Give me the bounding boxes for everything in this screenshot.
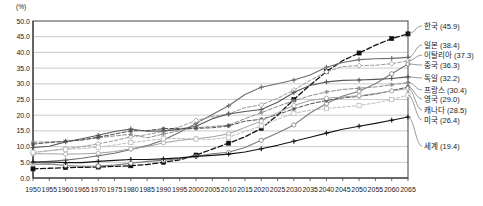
- data-point-marker: [96, 135, 100, 139]
- legend-label-한국: 한국 (45.9): [424, 22, 460, 31]
- data-point-marker: [390, 97, 394, 101]
- data-point-marker: [357, 51, 361, 55]
- legend-label-일본: 일본 (38.4): [424, 41, 460, 50]
- data-point-marker: [259, 111, 263, 115]
- legend-label-캐나다: 캐나다 (28.5): [424, 106, 467, 115]
- data-point-marker: [161, 127, 165, 131]
- x-axis-tick-label: 2040: [319, 186, 335, 193]
- x-axis-tick-label: 1970: [90, 186, 106, 193]
- x-axis-tick-label: 2020: [253, 186, 269, 193]
- y-axis-tick-label: 40.0: [16, 49, 30, 56]
- y-axis-tick-label: 35.0: [16, 65, 30, 72]
- x-axis-tick-label: 1960: [58, 186, 74, 193]
- x-axis-tick-label: 2045: [335, 186, 351, 193]
- data-point-marker: [292, 103, 296, 107]
- data-point-marker: [292, 111, 296, 115]
- data-point-marker: [357, 94, 361, 98]
- data-point-marker: [96, 164, 100, 168]
- data-point-marker: [390, 72, 394, 76]
- x-axis-tick-label: 2055: [368, 186, 384, 193]
- x-axis-tick-labels: 1950195519601965197019751980198519901995…: [25, 186, 416, 193]
- x-axis-tick-label: 1950: [25, 186, 41, 193]
- data-point-marker: [64, 147, 68, 151]
- y-axis-tick-label: 45.0: [16, 33, 30, 40]
- data-point-marker: [390, 83, 394, 87]
- legend-label-이탈리아: 이탈리아 (37.3): [424, 50, 474, 60]
- data-point-marker: [259, 119, 263, 123]
- data-point-marker: [324, 96, 328, 100]
- y-axis-tick-label: 15.0: [16, 127, 30, 134]
- chart-figure: (%) 0.05.010.015.020.025.030.035.040.045…: [0, 0, 483, 206]
- x-axis-tick-label: 1990: [156, 186, 172, 193]
- x-axis-tick-label: 2030: [286, 186, 302, 193]
- data-point-marker: [161, 137, 165, 141]
- data-point-marker: [324, 90, 328, 94]
- data-point-marker: [31, 150, 35, 154]
- x-axis-tick-label: 1985: [139, 186, 155, 193]
- data-point-marker: [129, 129, 133, 133]
- data-point-marker: [324, 107, 328, 111]
- legend-label-독일: 독일 (32.2): [424, 74, 460, 83]
- x-axis-tick-label: 1965: [74, 186, 90, 193]
- y-axis-tick-label: 50.0: [16, 18, 30, 25]
- data-point-marker: [390, 89, 394, 93]
- data-point-marker: [96, 145, 100, 149]
- data-point-marker: [161, 141, 165, 145]
- data-point-marker: [129, 140, 133, 144]
- x-axis-tick-label: 1975: [107, 186, 123, 193]
- data-point-marker: [194, 126, 198, 130]
- data-point-marker: [31, 167, 35, 171]
- x-axis-tick-label: 2025: [270, 186, 286, 193]
- y-axis-unit-label: (%): [16, 3, 26, 11]
- data-point-marker: [259, 138, 263, 142]
- data-point-marker: [259, 124, 263, 128]
- legend-label-프랑스: 프랑스 (30.4): [424, 86, 467, 95]
- data-point-marker: [64, 152, 68, 156]
- x-axis-tick-label: 2050: [351, 186, 367, 193]
- data-point-marker: [64, 139, 68, 143]
- data-point-marker: [292, 123, 296, 127]
- data-point-marker: [357, 103, 361, 107]
- legend-label-세계: 세계 (19.4): [424, 141, 460, 151]
- legend-label-중국: 중국 (36.3): [424, 61, 460, 70]
- legend-label-미국: 미국 (26.4): [424, 116, 460, 125]
- data-point-marker: [129, 147, 133, 151]
- data-point-marker: [227, 141, 231, 145]
- y-axis-tick-label: 20.0: [16, 112, 30, 119]
- x-axis-tick-label: 2000: [188, 186, 204, 193]
- data-point-marker: [227, 135, 231, 139]
- data-point-marker: [390, 36, 394, 40]
- y-axis-tick-label: 5.0: [20, 159, 30, 166]
- x-axis-tick-label: 2065: [400, 186, 416, 193]
- x-axis-tick-label: 1955: [42, 186, 58, 193]
- data-point-marker: [292, 99, 296, 103]
- x-axis-tick-label: 2060: [384, 186, 400, 193]
- data-point-marker: [96, 151, 100, 155]
- y-axis-tick-label: 0.0: [20, 175, 30, 182]
- legend-label-영국: 영국 (29.0): [424, 94, 460, 104]
- x-axis-tick-label: 2015: [237, 186, 253, 193]
- data-point-marker: [194, 137, 198, 141]
- x-axis-tick-label: 2035: [302, 186, 318, 193]
- x-axis-tick-label: 2010: [221, 186, 237, 193]
- x-axis-tick-label: 2005: [205, 186, 221, 193]
- y-axis-tick-label: 25.0: [16, 96, 30, 103]
- y-axis-tick-label: 10.0: [16, 143, 30, 150]
- data-point-marker: [161, 132, 165, 136]
- x-axis-tick-label: 1980: [123, 186, 139, 193]
- line-chart-svg: (%) 0.05.010.015.020.025.030.035.040.045…: [0, 0, 483, 206]
- chart-background: [0, 0, 483, 206]
- data-point-marker: [357, 86, 361, 90]
- data-point-marker: [31, 142, 35, 146]
- y-axis-tick-label: 30.0: [16, 80, 30, 87]
- data-point-marker: [227, 124, 231, 128]
- x-axis-tick-label: 1995: [172, 186, 188, 193]
